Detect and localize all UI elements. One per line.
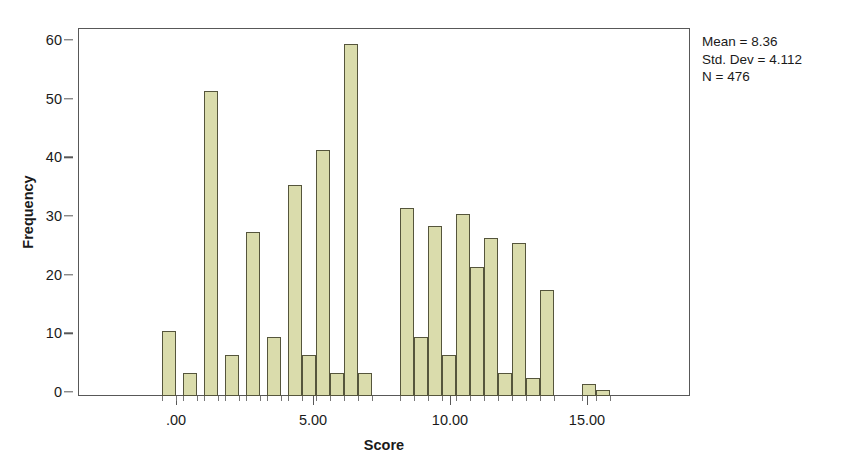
y-tick-label: 60	[46, 32, 62, 48]
plot-area	[78, 28, 690, 396]
y-tick-label: 50	[46, 91, 62, 107]
histogram-bar	[344, 44, 358, 396]
histogram-bar	[442, 355, 456, 396]
x-minor-tick	[267, 396, 268, 401]
x-minor-tick	[512, 396, 513, 401]
x-minor-tick	[470, 396, 471, 401]
x-minor-tick	[610, 396, 611, 401]
x-tick-mark	[450, 396, 451, 405]
x-minor-tick	[358, 396, 359, 401]
y-tick-label: 0	[54, 384, 62, 400]
histogram-screenshot: 0102030405060 Frequency Score .005.0010.…	[0, 0, 842, 471]
y-axis-title: Frequency	[20, 175, 36, 248]
x-minor-tick	[554, 396, 555, 401]
x-minor-tick	[372, 396, 373, 401]
y-tick-mark	[64, 157, 73, 158]
x-minor-tick	[442, 396, 443, 401]
histogram-bar	[456, 214, 470, 396]
x-minor-tick	[225, 396, 226, 401]
y-tick-label: 10	[46, 325, 62, 341]
y-tick-mark	[64, 39, 73, 40]
x-axis-title: Score	[364, 437, 404, 453]
x-axis: Score .005.0010.0015.00	[78, 396, 690, 471]
x-minor-tick	[498, 396, 499, 401]
x-minor-tick	[344, 396, 345, 401]
stat-std-dev: Std. Dev = 4.112	[702, 51, 802, 69]
x-minor-tick	[302, 396, 303, 401]
x-minor-tick	[456, 396, 457, 401]
x-minor-tick	[204, 396, 205, 401]
x-minor-tick	[582, 396, 583, 401]
statistics-annotation: Mean = 8.36 Std. Dev = 4.112 N = 476	[702, 33, 802, 86]
x-minor-tick	[596, 396, 597, 401]
histogram-bar	[267, 337, 281, 396]
histogram-bar	[358, 373, 372, 396]
histogram-bar	[400, 208, 414, 396]
x-tick-label: 5.00	[299, 412, 327, 428]
x-tick-label: .00	[166, 412, 186, 428]
histogram-bar	[498, 373, 512, 396]
x-tick-label: 10.00	[432, 412, 468, 428]
x-tick-label: 15.00	[569, 412, 605, 428]
histogram-bar	[288, 185, 302, 396]
y-axis-title-wrap: Frequency	[22, 0, 42, 424]
histogram-bar	[512, 243, 526, 396]
histogram-bar	[582, 384, 596, 396]
x-minor-tick	[197, 396, 198, 401]
histogram-bar	[526, 378, 540, 396]
y-tick-mark	[64, 274, 73, 275]
y-tick-label: 40	[46, 149, 62, 165]
x-minor-tick	[246, 396, 247, 401]
x-minor-tick	[176, 396, 177, 401]
y-tick-label: 20	[46, 267, 62, 283]
histogram-bar	[484, 238, 498, 396]
y-tick-mark	[64, 391, 73, 392]
x-minor-tick	[239, 396, 240, 401]
x-tick-mark	[587, 396, 588, 405]
histogram-bar	[330, 373, 344, 396]
x-minor-tick	[526, 396, 527, 401]
histogram-bar	[428, 226, 442, 396]
x-minor-tick	[162, 396, 163, 401]
x-tick-mark	[313, 396, 314, 405]
histogram-bar	[470, 267, 484, 396]
y-tick-mark	[64, 98, 73, 99]
x-minor-tick	[414, 396, 415, 401]
histogram-bar	[225, 355, 239, 396]
x-minor-tick	[540, 396, 541, 401]
histogram-bar	[316, 150, 330, 396]
x-minor-tick	[484, 396, 485, 401]
x-minor-tick	[400, 396, 401, 401]
x-minor-tick	[260, 396, 261, 401]
x-minor-tick	[330, 396, 331, 401]
histogram-bar	[246, 232, 260, 396]
stat-n: N = 476	[702, 68, 802, 86]
y-tick-mark	[64, 333, 73, 334]
x-minor-tick	[281, 396, 282, 401]
histogram-bar	[204, 91, 218, 396]
x-minor-tick	[316, 396, 317, 401]
x-minor-tick	[183, 396, 184, 401]
x-minor-tick	[288, 396, 289, 401]
x-minor-tick	[428, 396, 429, 401]
histogram-bar	[302, 355, 316, 396]
histogram-bar	[183, 373, 197, 396]
stat-mean: Mean = 8.36	[702, 33, 802, 51]
y-tick-label: 30	[46, 208, 62, 224]
y-tick-mark	[64, 215, 73, 216]
histogram-bar	[540, 290, 554, 396]
histogram-bar	[162, 331, 176, 396]
histogram-bar	[414, 337, 428, 396]
x-minor-tick	[218, 396, 219, 401]
